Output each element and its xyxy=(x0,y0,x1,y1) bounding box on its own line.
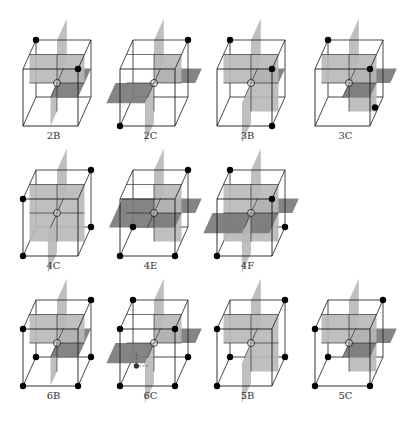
vertex-dot-btr xyxy=(380,297,386,303)
dark-plane xyxy=(203,213,278,233)
vertex-dot-fbl xyxy=(117,123,123,129)
panel-label: 6B xyxy=(47,390,61,401)
vertex-dot-btr xyxy=(185,167,191,173)
vertex-dot-ftr xyxy=(269,66,275,72)
vertex-dot-btl xyxy=(227,37,233,43)
vertex-dot-ftl xyxy=(117,326,123,332)
panel-label: 2B xyxy=(47,130,61,141)
cube-edge xyxy=(78,357,91,386)
vertex-dot-btr xyxy=(282,297,288,303)
cube-panel-6c: 6C xyxy=(106,279,201,404)
cube-panel-3b: 3B xyxy=(217,19,285,144)
vertex-dot-bbl xyxy=(130,224,136,230)
panel-label: 2C xyxy=(143,130,157,141)
cube-edge xyxy=(23,97,36,126)
cube-edge xyxy=(23,357,36,386)
center-point-marker xyxy=(54,210,61,217)
vertex-dot-bbl xyxy=(33,354,39,360)
vertex-dot-ftr xyxy=(269,196,275,202)
vertex-dot-ftr xyxy=(75,66,81,72)
vertex-dot-bmr xyxy=(372,104,378,110)
vertex-dot-ftl xyxy=(20,326,26,332)
vertex-dot-btr xyxy=(185,37,191,43)
center-point-marker xyxy=(346,80,353,87)
vertex-dot-bbr xyxy=(282,354,288,360)
cube-panel-2b: 2B xyxy=(23,19,91,142)
panel-label: 3B xyxy=(241,130,255,141)
vertex-dot-ftl xyxy=(214,326,220,332)
center-point-marker xyxy=(248,210,255,217)
cube-edge xyxy=(78,97,91,126)
vertex-dot-fbr xyxy=(75,383,81,389)
center-point-marker xyxy=(248,80,255,87)
center-point-marker xyxy=(151,80,158,87)
cube-edge xyxy=(315,357,328,386)
panel-label: 4C xyxy=(46,260,60,271)
panel-label: 3C xyxy=(338,130,352,141)
cube-edge xyxy=(175,97,188,126)
vertex-dot-ftr xyxy=(367,66,373,72)
cube-panel-4e: 4E xyxy=(109,149,202,272)
cube-panel-3c: 3C xyxy=(315,19,397,142)
cube-edge xyxy=(217,357,230,386)
panel-label: 4E xyxy=(144,260,158,271)
vertex-dot-btl xyxy=(227,167,233,173)
panel-label: 6C xyxy=(143,390,157,401)
light-plane xyxy=(251,83,279,112)
panel-label: 5C xyxy=(338,390,352,401)
center-point-marker xyxy=(151,210,158,217)
vertex-dot-bbl xyxy=(325,354,331,360)
vertex-dot-bbr xyxy=(185,354,191,360)
vertex-dot-fbr xyxy=(269,123,275,129)
vertex-dot-btl xyxy=(130,297,136,303)
cube-edge xyxy=(315,97,328,126)
vertex-dot-ftr xyxy=(172,326,178,332)
cube-edge xyxy=(175,357,188,386)
vertex-dot-fbl xyxy=(20,253,26,259)
vertex-dot-fbl xyxy=(20,383,26,389)
vertex-dot-bbr xyxy=(282,224,288,230)
vertex-dot-btl xyxy=(33,37,39,43)
vertex-dot-fbl xyxy=(312,383,318,389)
center-point-marker xyxy=(248,340,255,347)
cube-panel-6b: 6B xyxy=(20,279,94,402)
vertex-dot-btr xyxy=(88,167,94,173)
vertex-dot-fbl xyxy=(117,253,123,259)
vertex-dot-fbr xyxy=(367,383,373,389)
vertex-dot-bbr xyxy=(88,224,94,230)
center-point-marker xyxy=(54,340,61,347)
cube-diagram-figure: 2B2C3B3C4C4E4F6B6C5B5C xyxy=(0,0,416,421)
vertex-dot-ftl xyxy=(20,196,26,202)
vertex-dot-ftl xyxy=(312,326,318,332)
vertex-dot-fbl xyxy=(117,383,123,389)
center-point-marker xyxy=(346,340,353,347)
vertex-dot-btl xyxy=(325,37,331,43)
cube-edge xyxy=(217,97,230,126)
cube-edge xyxy=(120,227,133,256)
cube-panel-4c: 4C xyxy=(20,149,94,274)
cube-panel-4f: 4F xyxy=(203,149,298,274)
vertex-dot-btr xyxy=(88,297,94,303)
vertex-dot-fbl xyxy=(214,383,220,389)
vertex-dot-fbr xyxy=(172,383,178,389)
vertex-dot-fbl xyxy=(214,253,220,259)
center-point-marker xyxy=(54,80,61,87)
vertex-dot-fbr xyxy=(172,253,178,259)
light-plane xyxy=(251,343,279,372)
cube-panel-2c: 2C xyxy=(106,19,201,144)
panel-label: 5B xyxy=(241,390,255,401)
vertex-dot-bbl xyxy=(227,354,233,360)
projected-point-marker xyxy=(134,363,139,368)
vertex-dot-bbr xyxy=(88,354,94,360)
cube-panel-5c: 5C xyxy=(312,279,397,402)
center-point-marker xyxy=(151,340,158,347)
panel-label: 4F xyxy=(241,260,254,271)
cube-panel-5b: 5B xyxy=(214,279,288,404)
